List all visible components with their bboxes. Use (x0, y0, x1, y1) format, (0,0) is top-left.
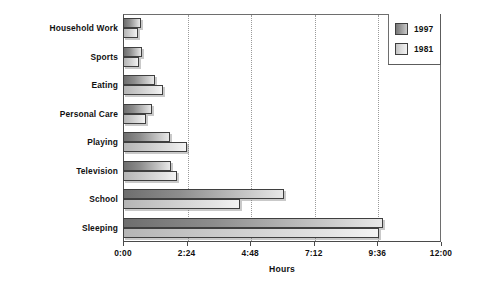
x-axis-tick-label: 9:36 (347, 248, 407, 258)
category-label: Playing (0, 137, 118, 147)
bar[interactable] (123, 132, 170, 142)
legend-swatch-icon (395, 43, 408, 55)
legend-entry-1981[interactable]: 1981 (395, 42, 433, 55)
bar[interactable] (123, 104, 152, 114)
category-label: Television (0, 166, 118, 176)
category-label: Personal Care (0, 109, 118, 119)
x-axis-tick-label: 2:24 (157, 248, 217, 258)
x-axis-tick-label: 0:00 (93, 248, 153, 258)
x-axis-tick (314, 242, 315, 246)
bar[interactable] (123, 114, 146, 124)
legend-swatch-icon (395, 23, 408, 35)
bar[interactable] (123, 171, 177, 181)
legend-entry-1997[interactable]: 1997 (395, 22, 433, 35)
bar[interactable] (123, 189, 284, 199)
category-label: Sleeping (0, 223, 118, 233)
category-label: Sports (0, 52, 118, 62)
bar[interactable] (123, 85, 163, 95)
category-label: Household Work (0, 23, 118, 33)
legend-label: 1981 (414, 44, 433, 54)
bar[interactable] (123, 161, 171, 171)
x-axis-tick (441, 242, 442, 246)
x-axis-title: Hours (123, 264, 441, 274)
x-axis-tick (377, 242, 378, 246)
x-axis-tick (250, 242, 251, 246)
x-axis-tick (187, 242, 188, 246)
bar-chart: Household WorkSportsEatingPersonal CareP… (0, 0, 482, 289)
legend-label: 1997 (414, 24, 433, 34)
bar[interactable] (123, 142, 187, 152)
x-axis-tick (123, 242, 124, 246)
x-axis-tick-label: 4:48 (220, 248, 280, 258)
x-axis-tick-label: 12:00 (411, 248, 471, 258)
bar[interactable] (123, 218, 383, 228)
bar[interactable] (123, 75, 155, 85)
bar[interactable] (123, 47, 142, 57)
category-axis-labels: Household WorkSportsEatingPersonal CareP… (0, 14, 118, 242)
bar[interactable] (123, 28, 138, 38)
category-label: Eating (0, 80, 118, 90)
bar[interactable] (123, 18, 141, 28)
category-label: School (0, 194, 118, 204)
legend: 1997 1981 (388, 14, 441, 65)
bar[interactable] (123, 199, 240, 209)
bar[interactable] (123, 57, 139, 67)
bar[interactable] (123, 228, 379, 238)
x-axis-tick-label: 7:12 (284, 248, 344, 258)
